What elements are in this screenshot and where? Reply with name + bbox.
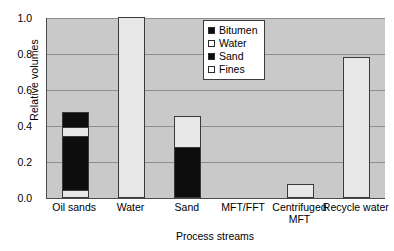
legend-item: Fines xyxy=(208,63,258,76)
bar-segment-bitumen xyxy=(62,112,89,127)
y-tick-label: 0.8 xyxy=(6,49,32,59)
chart-legend: BitumenWaterSandFines xyxy=(203,20,265,80)
bar-segment-sand xyxy=(62,136,89,191)
bar-segment-water xyxy=(343,57,370,198)
legend-item: Sand xyxy=(208,50,258,63)
bar-segment-water xyxy=(118,17,145,198)
gridline xyxy=(47,90,385,91)
bar xyxy=(118,18,145,198)
bar xyxy=(174,117,201,198)
x-axis-title: Process streams xyxy=(46,230,384,242)
bar-segment-sand xyxy=(174,147,201,198)
y-axis-tick-labels: 1.00.80.60.40.20.0 xyxy=(4,0,32,251)
x-tick-label: Recycle water xyxy=(322,201,390,213)
gridline xyxy=(47,162,385,163)
bar-segment-water xyxy=(62,127,89,137)
bar-segment-water xyxy=(174,116,201,148)
bar xyxy=(343,58,370,198)
chart-figure: Relative volumes 1.00.80.60.40.20.0 Oil … xyxy=(0,0,394,251)
y-tick-label: 1.0 xyxy=(6,13,32,23)
bar xyxy=(287,185,314,198)
y-tick-label: 0.6 xyxy=(6,85,32,95)
gridline xyxy=(47,126,385,127)
y-tick-label: 0.0 xyxy=(6,193,32,203)
legend-label: Sand xyxy=(219,50,244,63)
y-tick-label: 0.4 xyxy=(6,121,32,131)
legend-item: Bitumen xyxy=(208,24,258,37)
gridline xyxy=(47,18,385,19)
legend-swatch-icon xyxy=(208,53,215,60)
legend-swatch-icon xyxy=(208,66,215,73)
y-tick-label: 0.2 xyxy=(6,157,32,167)
legend-label: Fines xyxy=(219,63,245,76)
legend-label: Water xyxy=(219,37,247,50)
legend-item: Water xyxy=(208,37,258,50)
legend-swatch-icon xyxy=(208,40,215,47)
bar xyxy=(62,113,89,198)
bar-segment-water xyxy=(287,184,314,198)
bar-segment-fines xyxy=(62,190,89,198)
legend-swatch-icon xyxy=(208,27,215,34)
legend-label: Bitumen xyxy=(219,24,258,37)
